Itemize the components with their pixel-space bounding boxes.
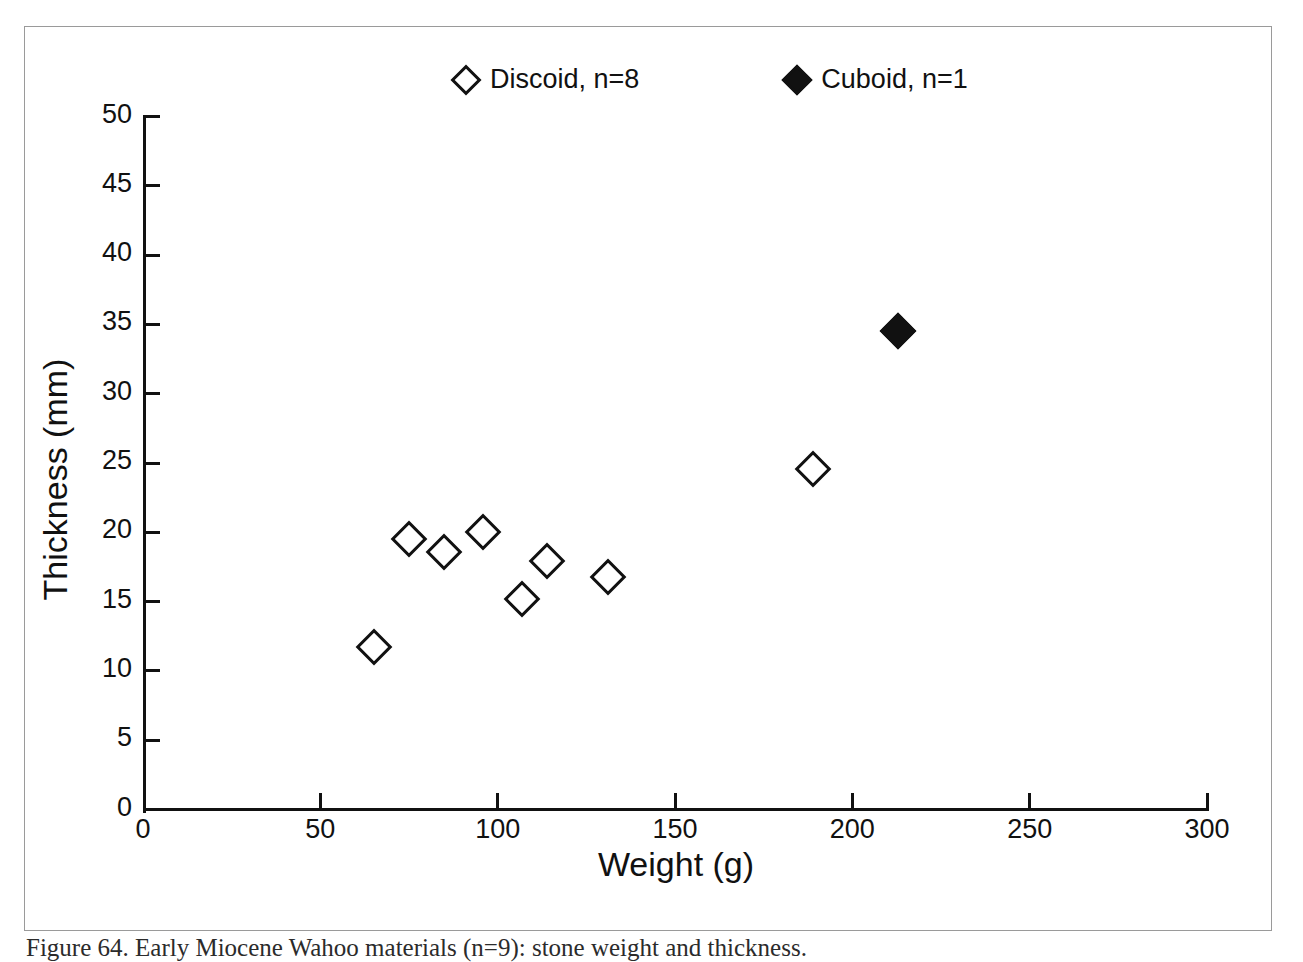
data-point-discoid [795,450,832,487]
figure-caption: Figure 64. Early Miocene Wahoo materials… [26,934,1276,962]
x-tick [319,793,322,810]
chart-legend: Discoid, n=8 Cuboid, n=1 [455,64,968,95]
x-tick-label: 50 [275,814,365,845]
data-point-discoid [426,533,463,570]
y-tick-label: 50 [62,99,132,130]
data-point-cuboid [880,313,917,350]
legend-label-cuboid: Cuboid, n=1 [821,64,967,95]
data-point-discoid [355,629,392,666]
legend-label-discoid: Discoid, n=8 [490,64,639,95]
data-point-discoid [529,543,566,580]
y-axis-title: Thickness (mm) [36,280,75,680]
y-tick-label: 5 [62,722,132,753]
y-tick [143,531,160,534]
y-tick [143,808,160,811]
x-tick-label: 250 [985,814,1075,845]
legend-entry-cuboid: Cuboid, n=1 [786,64,967,95]
x-tick [674,793,677,810]
x-tick [851,793,854,810]
y-tick [143,392,160,395]
data-point-discoid [465,514,502,551]
x-tick-label: 200 [807,814,897,845]
data-point-discoid [589,558,626,595]
y-tick [143,739,160,742]
x-tick [496,793,499,810]
x-tick-label: 150 [630,814,720,845]
x-tick-label: 100 [453,814,543,845]
x-tick-label: 300 [1162,814,1252,845]
y-axis-line [143,116,146,813]
x-tick [1206,793,1209,810]
data-point-discoid [504,580,541,617]
x-axis-title: Weight (g) [143,845,1209,884]
x-tick [1028,793,1031,810]
open-diamond-icon [450,64,481,95]
y-tick-label: 40 [62,237,132,268]
x-tick-label: 0 [98,814,188,845]
y-tick [143,669,160,672]
y-tick-label: 45 [62,168,132,199]
legend-entry-discoid: Discoid, n=8 [455,64,639,95]
y-tick [143,115,160,118]
y-tick [143,600,160,603]
filled-diamond-icon [782,64,813,95]
data-point-discoid [391,521,428,558]
y-tick [143,254,160,257]
y-tick [143,462,160,465]
y-tick [143,323,160,326]
y-tick [143,184,160,187]
